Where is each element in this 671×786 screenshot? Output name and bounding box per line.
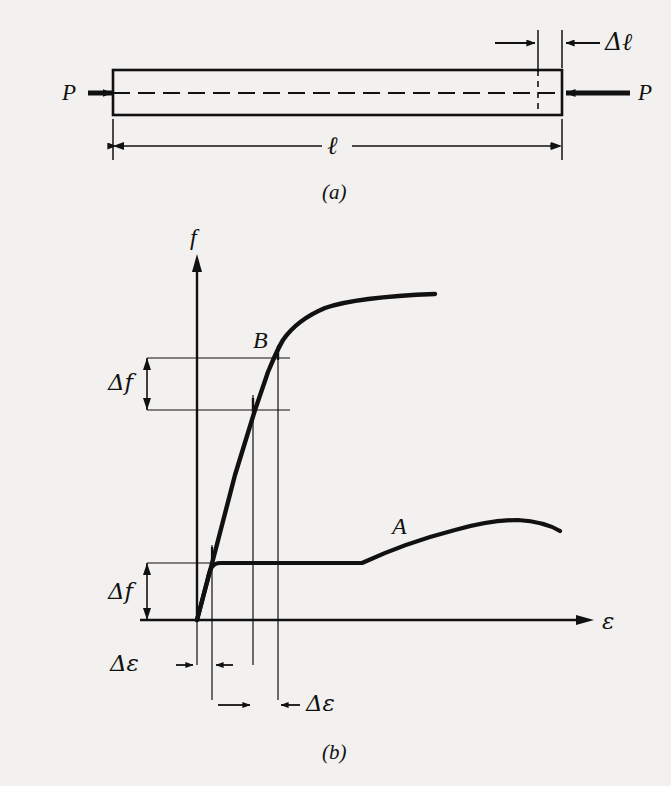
y-axis-label: f — [190, 224, 197, 251]
delta-f-lower-arrow-top — [143, 563, 151, 575]
load-label-left: P — [62, 80, 76, 106]
delta-f-lower-arrow-bottom — [143, 608, 151, 620]
elongation-label: Δℓ — [605, 28, 632, 56]
x-axis-arrowhead — [576, 615, 594, 625]
delta-f-lower-label: Δf — [108, 578, 133, 604]
delta-eps-right-label: Δε — [306, 690, 335, 716]
delta-f-upper-label: Δf — [108, 369, 133, 395]
load-label-right: P — [638, 80, 652, 106]
caption-b: (b) — [322, 740, 347, 765]
panel-a — [88, 30, 630, 160]
length-label: ℓ — [327, 131, 337, 160]
engineering-figure — [0, 0, 671, 786]
delta-f-upper-arrow-bottom — [143, 398, 151, 410]
curve-b-label: B — [253, 327, 268, 354]
y-axis-arrowhead — [192, 254, 202, 272]
caption-a: (a) — [322, 180, 347, 205]
length-arrowhead-right — [551, 142, 562, 150]
delta-eps-left-label: Δε — [110, 650, 139, 676]
curve-a — [197, 520, 560, 620]
curve-b — [197, 294, 435, 620]
length-arrowhead-left — [113, 142, 124, 150]
delta-f-upper-arrow-top — [143, 358, 151, 370]
curve-a-label: A — [392, 513, 407, 540]
x-axis-label: ε — [602, 608, 614, 634]
panel-b — [140, 254, 594, 705]
